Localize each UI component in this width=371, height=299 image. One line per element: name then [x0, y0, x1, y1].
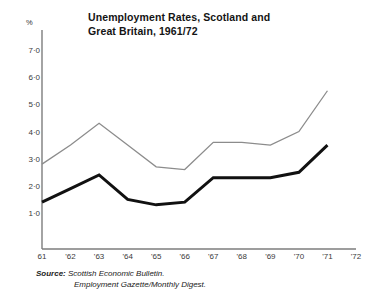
x-tick-label: '72 [351, 252, 361, 261]
x-tick-label: '65 [151, 252, 161, 261]
x-tick-label: '68 [237, 252, 247, 261]
x-tick-label: '69 [265, 252, 275, 261]
x-tick-label: '66 [180, 252, 190, 261]
x-tick-label: '71 [322, 252, 332, 261]
x-tick-label: 61 [38, 252, 47, 261]
x-tick-label: '67 [208, 252, 218, 261]
x-tick-label: '63 [94, 252, 104, 261]
source-note: Source: Scottish Economic Bulletin. Empl… [36, 268, 336, 290]
source-line-2: Employment Gazette/Monthly Digest. [74, 279, 336, 290]
x-tick-label: '62 [65, 252, 75, 261]
source-line-1: Scottish Economic Bulletin. [68, 269, 165, 278]
source-label: Source: [36, 269, 66, 278]
x-axis-tick-labels: 61'62'63'64'65'66'67'68'69'70'71'72 [0, 0, 371, 299]
x-tick-label: '64 [122, 252, 132, 261]
x-tick-label: '70 [294, 252, 304, 261]
chart-figure: Unemployment Rates, Scotland and Great B… [0, 0, 371, 299]
